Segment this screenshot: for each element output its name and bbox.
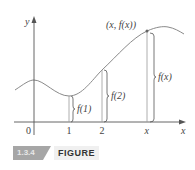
figure-number: 1.3.4 bbox=[13, 146, 43, 160]
figure-badge: 1.3.4 FIGURE bbox=[13, 146, 99, 160]
annotation-f1: f(1) bbox=[77, 103, 92, 115]
function-curve bbox=[15, 27, 184, 96]
brace-f2 bbox=[104, 70, 109, 122]
figure-word: FIGURE bbox=[54, 146, 99, 160]
y-axis-arrow-icon bbox=[32, 16, 37, 23]
brace-f1 bbox=[71, 96, 75, 122]
tick-label-2: 2 bbox=[100, 125, 105, 136]
badge-divider bbox=[43, 146, 51, 160]
point-label: (x, f(x)) bbox=[106, 19, 137, 31]
tick-label-1: 1 bbox=[67, 125, 72, 136]
function-graph: y x 0 1 2 x (x, f(x)) f(1) f(2) f(x) bbox=[0, 0, 195, 170]
origin-label: 0 bbox=[26, 125, 31, 136]
point-marker bbox=[146, 30, 149, 33]
tick-label-x: x bbox=[144, 125, 150, 136]
x-axis-label: x bbox=[180, 125, 186, 136]
annotation-fx: f(x) bbox=[158, 71, 173, 83]
brace-fx bbox=[150, 33, 156, 122]
x-axis-arrow-icon bbox=[179, 120, 186, 125]
annotation-f2: f(2) bbox=[111, 90, 126, 102]
y-axis-label: y bbox=[24, 16, 30, 27]
